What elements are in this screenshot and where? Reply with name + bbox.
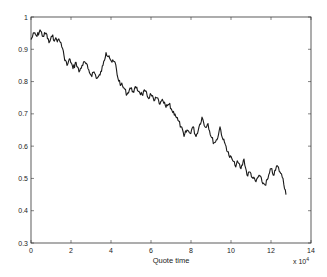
x-tick-label: 10 bbox=[227, 247, 235, 254]
x-tick-label: 8 bbox=[189, 247, 193, 254]
y-tick-label: 1 bbox=[24, 14, 28, 21]
y-tick-label: 0.7 bbox=[18, 110, 28, 117]
y-tick-label: 0.4 bbox=[18, 207, 28, 214]
x-tick-label: 14 bbox=[307, 247, 315, 254]
x-axis-label: Quote time bbox=[153, 256, 190, 265]
x-tick-label: 2 bbox=[69, 247, 73, 254]
y-tick-label: 0.6 bbox=[18, 143, 28, 150]
x-tick-label: 6 bbox=[149, 247, 153, 254]
x-tick-label: 12 bbox=[267, 247, 275, 254]
y-tick-label: 0.9 bbox=[18, 46, 28, 53]
x-tick-label: 0 bbox=[29, 247, 33, 254]
y-tick-label: 0.3 bbox=[18, 240, 28, 247]
line-chart: 024681012140.30.40.50.60.70.80.91 Quote … bbox=[0, 0, 327, 277]
x-tick-label: 4 bbox=[109, 247, 113, 254]
y-tick-label: 0.8 bbox=[18, 78, 28, 85]
y-tick-label: 0.5 bbox=[18, 175, 28, 182]
